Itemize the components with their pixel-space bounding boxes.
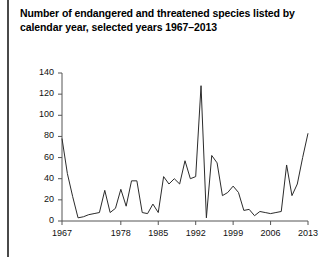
y-tick-label: 120 <box>10 88 54 98</box>
chart-figure: Number of endangered and threatened spec… <box>0 0 332 257</box>
y-tick-label: 100 <box>10 109 54 119</box>
y-tick-label: 80 <box>10 130 54 140</box>
x-tick-label: 1999 <box>213 228 253 238</box>
y-tick-label: 20 <box>10 194 54 204</box>
y-tick-label: 40 <box>10 173 54 183</box>
x-tick-label: 2013 <box>288 228 328 238</box>
x-tick-label: 1978 <box>101 228 141 238</box>
axes <box>62 73 308 221</box>
y-tick-label: 60 <box>10 152 54 162</box>
y-tick-label: 0 <box>10 215 54 225</box>
x-tick-label: 1967 <box>42 228 82 238</box>
axis-ticks <box>58 73 308 225</box>
x-tick-label: 2006 <box>251 228 291 238</box>
x-tick-label: 1992 <box>176 228 216 238</box>
plot-area: 020406080100120140 196719781985199219992… <box>0 0 332 257</box>
y-tick-label: 140 <box>10 67 54 77</box>
data-line-species-listed <box>62 86 308 218</box>
x-tick-label: 1985 <box>138 228 178 238</box>
